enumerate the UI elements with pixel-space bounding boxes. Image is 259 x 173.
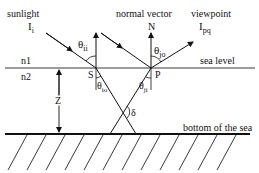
incident-ray-arrow <box>46 33 72 51</box>
label-theta-ji: θji <box>139 80 148 94</box>
angle-arc-theta-ji <box>146 77 151 78</box>
label-point-p: P <box>155 69 161 80</box>
diagram-canvas: sunlight Ii normal vector N viewpoint Ip… <box>0 0 259 173</box>
label-view-intensity: Ipq <box>199 20 211 35</box>
label-normal-n: N <box>148 21 155 32</box>
label-point-s: S <box>88 69 94 80</box>
label-n1: n1 <box>21 55 31 66</box>
label-incident-intensity: Ii <box>28 20 35 35</box>
angle-arc-theta-io <box>96 76 101 78</box>
label-sea-bottom: bottom of the sea <box>183 122 253 133</box>
label-n2: n2 <box>21 71 31 82</box>
label-theta-ii: θii <box>78 38 89 53</box>
label-normal-vector: normal vector <box>116 8 172 19</box>
angle-arc-delta <box>127 106 130 118</box>
label-sea-level: sea level <box>200 55 235 66</box>
sea-bottom-hatching <box>8 135 236 170</box>
label-sunlight: sunlight <box>7 8 39 19</box>
label-viewpoint: viewpoint <box>191 8 231 19</box>
incident-ray-2-arrow <box>101 33 122 48</box>
label-theta-io: θio <box>97 80 108 94</box>
angle-arc-theta-ii <box>86 56 96 61</box>
label-delta: δ <box>131 107 136 118</box>
label-depth-z: Z <box>55 95 61 106</box>
